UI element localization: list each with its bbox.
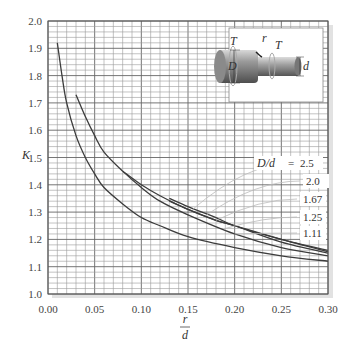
- inset-label-D: D: [227, 59, 237, 73]
- y-tick-label: 1.0: [28, 288, 42, 300]
- inset-label-d: d: [303, 59, 310, 73]
- y-tick-label: 1.7: [28, 97, 42, 109]
- legend-label-2_0: 2.0: [306, 175, 320, 187]
- inset-label-r: r: [262, 31, 267, 45]
- x-axis-ticks: 0.000.050.100.150.200.250.30: [38, 303, 338, 315]
- x-tick-label: 0.30: [318, 303, 338, 315]
- y-tick-label: 1.1: [28, 261, 42, 273]
- x-tick-label: 0.10: [132, 303, 152, 315]
- x-axis-label-denominator: d: [182, 328, 189, 342]
- x-axis-label-numerator: r: [183, 312, 188, 326]
- x-tick-label: 0.20: [225, 303, 245, 315]
- shaft-small-end: [295, 57, 302, 76]
- legend-label-1_11: 1.11: [303, 227, 322, 239]
- legend-label-1_25: 1.25: [303, 211, 323, 223]
- y-tick-label: 1.8: [28, 70, 42, 82]
- legend-label-1_67: 1.67: [303, 193, 323, 205]
- shaft-small: [258, 57, 298, 76]
- y-tick-label: 1.9: [28, 42, 42, 54]
- y-tick-label: 2.0: [28, 15, 42, 27]
- legend-title: D/d: [256, 156, 276, 170]
- x-tick-label: 0.05: [85, 303, 105, 315]
- y-tick-label: 1.4: [28, 179, 42, 191]
- y-tick-label: 1.5: [28, 152, 42, 164]
- legend-equals: =: [288, 157, 294, 169]
- y-tick-label: 1.6: [28, 124, 42, 136]
- x-tick-label: 0.25: [272, 303, 292, 315]
- stress-concentration-chart: D d T r T 1.01.11.21.31.41.51.61.71.81.9…: [0, 0, 357, 352]
- x-tick-label: 0.00: [38, 303, 58, 315]
- y-tick-label: 1.3: [28, 206, 42, 218]
- y-axis-ticks: 1.01.11.21.31.41.51.61.71.81.92.0: [28, 15, 42, 300]
- legend-label-2_5: 2.5: [300, 157, 314, 169]
- shaft-inset: D d T r T: [214, 28, 323, 102]
- shaft-large-end: [214, 50, 226, 83]
- x-tick-label: 0.15: [178, 303, 198, 315]
- y-tick-label: 1.2: [28, 233, 42, 245]
- y-axis-label: K: [21, 148, 31, 162]
